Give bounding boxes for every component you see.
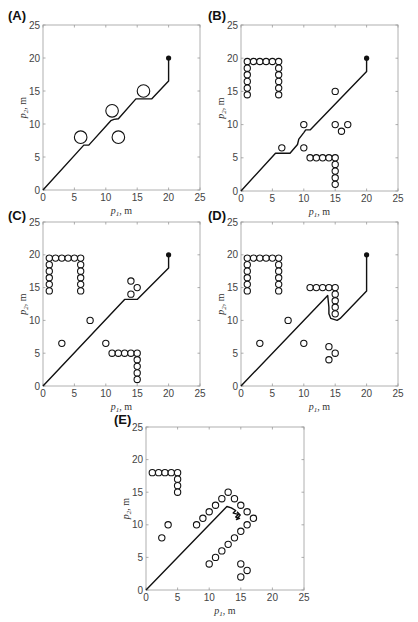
obstacle-circle <box>174 469 180 475</box>
plot-svg: 05101520250510152025p1, mp2, m <box>0 0 418 622</box>
obstacle-circle <box>212 554 218 560</box>
obstacle-circle <box>200 515 206 521</box>
obstacle-circle <box>162 469 168 475</box>
obstacle-circle <box>174 489 180 495</box>
x-tick-label: 10 <box>204 592 216 603</box>
obstacle-circle <box>238 574 244 580</box>
obstacle-circle <box>206 509 212 515</box>
obstacle-circle <box>231 496 237 502</box>
x-tick-label: 0 <box>143 592 149 603</box>
y-tick-label: 0 <box>137 585 143 596</box>
obstacle-circle <box>165 522 171 528</box>
x-tick-label: 20 <box>267 592 279 603</box>
y-axis-label: p2, m <box>120 498 133 521</box>
obstacle-circle <box>206 561 212 567</box>
obstacle-circle <box>238 528 244 534</box>
obstacle-circle <box>231 535 237 541</box>
x-axis-label: p1, m <box>213 605 236 618</box>
obstacle-circle <box>149 469 155 475</box>
obstacle-circle <box>238 502 244 508</box>
obstacle-circle <box>225 541 231 547</box>
obstacle-circle <box>244 522 250 528</box>
obstacle-circle <box>159 535 165 541</box>
y-tick-label: 5 <box>137 552 143 563</box>
x-tick-label: 5 <box>175 592 181 603</box>
obstacle-circle <box>174 483 180 489</box>
obstacle-circle <box>168 469 174 475</box>
obstacle-circle <box>155 469 161 475</box>
y-tick-label: 10 <box>132 519 144 530</box>
chart-panel-e: 05101520250510152025p1, mp2, m <box>0 0 418 622</box>
x-tick-label: 15 <box>235 592 247 603</box>
y-tick-label: 15 <box>132 487 144 498</box>
y-tick-label: 25 <box>132 422 144 433</box>
obstacle-circle <box>244 509 250 515</box>
obstacle-circle <box>219 548 225 554</box>
obstacle-circle <box>244 567 250 573</box>
obstacle-circle <box>212 502 218 508</box>
obstacle-circle <box>238 561 244 567</box>
obstacle-circle <box>219 496 225 502</box>
obstacle-circle <box>193 522 199 528</box>
obstacle-circle <box>250 515 256 521</box>
obstacle-circle <box>174 476 180 482</box>
x-tick-label: 25 <box>298 592 310 603</box>
y-tick-label: 20 <box>132 454 144 465</box>
obstacle-circle <box>225 489 231 495</box>
